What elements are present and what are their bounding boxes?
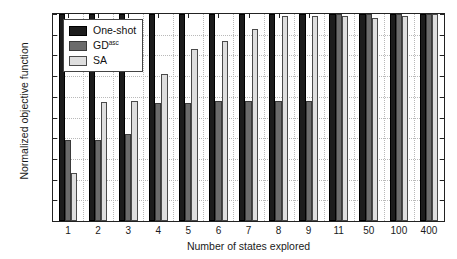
x-tick-label: 3: [125, 225, 131, 236]
legend-label: SA: [93, 55, 107, 66]
gridline-horizontal: [53, 76, 444, 77]
legend-item: GDasc: [69, 39, 136, 52]
x-tick-label: 50: [363, 225, 374, 236]
bar: [191, 49, 197, 221]
x-tick-label: 7: [246, 225, 252, 236]
x-tick-mark: [68, 14, 69, 18]
bar: [372, 18, 378, 221]
y-tick-mark: [53, 159, 57, 160]
y-tick-mark: [440, 138, 444, 139]
bar-chart-figure: Normalized objective function One-shotGD…: [0, 0, 457, 259]
x-tick-mark: [309, 14, 310, 18]
x-tick-mark: [128, 14, 129, 18]
bar: [282, 16, 288, 221]
x-tick-label: 4: [155, 225, 161, 236]
x-tick-mark: [158, 14, 159, 18]
y-tick-mark: [440, 55, 444, 56]
gridline-vertical: [354, 14, 355, 221]
x-tick-mark: [188, 14, 189, 18]
legend-label: GDasc: [93, 40, 119, 51]
gridline-vertical: [203, 14, 204, 221]
legend-swatch: [69, 41, 87, 51]
bar: [101, 102, 107, 221]
bar: [252, 29, 258, 222]
gridline-vertical: [414, 14, 415, 221]
x-tick-label: 5: [186, 225, 192, 236]
y-tick-mark: [53, 35, 57, 36]
y-tick-mark: [53, 14, 57, 15]
x-tick-mark: [279, 14, 280, 18]
bar: [222, 41, 228, 221]
x-tick-mark: [249, 14, 250, 18]
gridline-horizontal: [53, 97, 444, 98]
y-axis-title: Normalized objective function: [16, 0, 32, 222]
gridline-vertical: [233, 14, 234, 221]
y-tick-mark: [440, 159, 444, 160]
legend-item: One-shot: [69, 24, 136, 37]
y-tick-mark: [440, 180, 444, 181]
gridline-vertical: [143, 14, 144, 221]
y-tick-mark: [53, 180, 57, 181]
x-tick-mark: [218, 14, 219, 18]
x-tick-label: 100: [391, 225, 408, 236]
legend-label: One-shot: [93, 25, 136, 36]
gridline-vertical: [294, 14, 295, 221]
y-tick-mark: [440, 200, 444, 201]
y-tick-mark: [440, 14, 444, 15]
y-tick-mark: [440, 97, 444, 98]
x-axis-title: Number of states explored: [52, 240, 445, 252]
bar: [432, 14, 438, 221]
x-tick-label: 9: [306, 225, 312, 236]
y-tick-mark: [53, 76, 57, 77]
y-tick-mark: [440, 221, 444, 222]
bar: [71, 173, 77, 221]
y-tick-mark: [53, 138, 57, 139]
legend-swatch: [69, 26, 87, 36]
bar: [161, 74, 167, 221]
y-tick-mark: [440, 76, 444, 77]
x-tick-label: 11: [334, 225, 344, 236]
legend-item: SA: [69, 54, 136, 67]
y-tick-mark: [53, 200, 57, 201]
y-tick-mark: [53, 55, 57, 56]
y-tick-mark: [53, 118, 57, 119]
x-tick-label: 6: [216, 225, 222, 236]
bar: [312, 16, 318, 221]
bar: [131, 101, 137, 221]
gridline-vertical: [173, 14, 174, 221]
bar: [402, 16, 408, 221]
chart-legend: One-shotGDascSA: [63, 19, 143, 72]
bar: [342, 16, 348, 221]
y-tick-mark: [440, 35, 444, 36]
plot-area: One-shotGDascSA: [52, 13, 445, 222]
y-tick-mark: [53, 97, 57, 98]
gridline-vertical: [384, 14, 385, 221]
x-tick-label: 2: [95, 225, 101, 236]
gridline-vertical: [324, 14, 325, 221]
gridline-vertical: [264, 14, 265, 221]
x-tick-mark: [98, 14, 99, 18]
y-tick-mark: [440, 118, 444, 119]
x-tick-label: 8: [276, 225, 282, 236]
x-tick-label: 400: [421, 225, 438, 236]
y-tick-mark: [53, 221, 57, 222]
legend-swatch: [69, 56, 87, 66]
legend-label-superscript: asc: [109, 39, 119, 46]
x-tick-label: 1: [65, 225, 71, 236]
